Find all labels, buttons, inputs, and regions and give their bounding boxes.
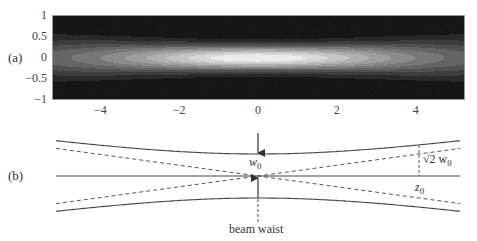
beam-profile-lines — [56, 133, 460, 222]
y-tick-label: 0.5 — [17, 30, 47, 42]
y-tick-label: −0.5 — [17, 72, 47, 84]
x-tick-label: 4 — [401, 104, 431, 116]
waist-radius-label: w0 — [249, 155, 262, 171]
y-tick-label: −1 — [17, 93, 47, 105]
y-tick-label: 1 — [17, 9, 47, 21]
x-tick-label: −2 — [164, 104, 194, 116]
y-tick-label: 0 — [17, 51, 47, 63]
x-tick-label: −4 — [85, 104, 115, 116]
x-tick-label: 2 — [322, 104, 352, 116]
beam-intensity-heatmap — [53, 16, 465, 100]
rayleigh-width-label: √2 w0 — [423, 152, 452, 168]
x-tick-label: 0 — [243, 104, 273, 116]
beam-waist-label: beam waist — [229, 222, 283, 237]
rayleigh-range-label: z0 — [415, 180, 424, 196]
